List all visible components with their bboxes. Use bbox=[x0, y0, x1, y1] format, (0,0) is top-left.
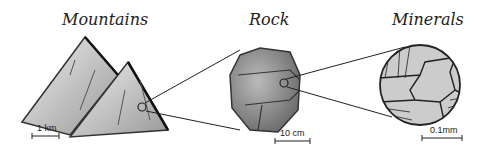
diagram-scale-hierarchy: Mountains Rock Minerals 1 km 10 cm 0.1mm bbox=[0, 0, 482, 155]
scale-label-rock: 10 cm bbox=[280, 128, 305, 138]
minerals-illustration bbox=[380, 45, 465, 125]
title-mountains: Mountains bbox=[62, 10, 148, 29]
scale-label-minerals: 0.1mm bbox=[430, 125, 458, 135]
mountains-illustration bbox=[22, 37, 168, 137]
title-rock: Rock bbox=[249, 10, 289, 29]
title-minerals: Minerals bbox=[392, 10, 464, 29]
scale-label-mountains: 1 km bbox=[37, 123, 57, 133]
rock-illustration bbox=[230, 48, 300, 132]
